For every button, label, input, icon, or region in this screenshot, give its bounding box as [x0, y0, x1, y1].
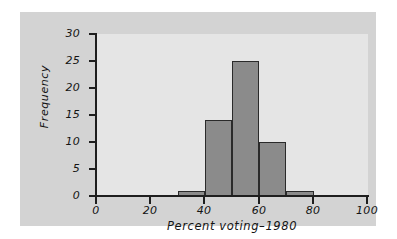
- x-tick: [149, 197, 151, 204]
- x-tick: [312, 197, 314, 204]
- figure-panel: 0 5 10 15 20 25 30 0 20 40 60 80 100 Fre…: [20, 12, 376, 226]
- x-axis-title: Percent voting–1980: [96, 219, 368, 233]
- x-tick-label: 100: [347, 205, 387, 216]
- y-axis-title: Frequency: [38, 49, 51, 145]
- chart-canvas: 0 5 10 15 20 25 30 0 20 40 60 80 100 Fre…: [0, 0, 397, 239]
- x-tick-label: 40: [184, 205, 224, 216]
- x-tick: [366, 197, 368, 204]
- x-tick-label: 60: [239, 205, 279, 216]
- x-axis-ticks: 0 20 40 60 80 100: [20, 12, 376, 226]
- x-tick: [203, 197, 205, 204]
- x-tick: [95, 197, 97, 204]
- x-tick-label: 80: [293, 205, 333, 216]
- x-tick-label: 0: [76, 205, 116, 216]
- x-tick: [258, 197, 260, 204]
- x-tick-label: 20: [130, 205, 170, 216]
